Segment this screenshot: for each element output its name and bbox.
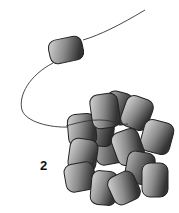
panel-label: 2 xyxy=(40,158,47,173)
bead-cluster xyxy=(63,89,176,207)
strand-line xyxy=(83,10,145,40)
single-bead xyxy=(47,35,85,66)
bead-chain-diagram xyxy=(0,0,179,213)
